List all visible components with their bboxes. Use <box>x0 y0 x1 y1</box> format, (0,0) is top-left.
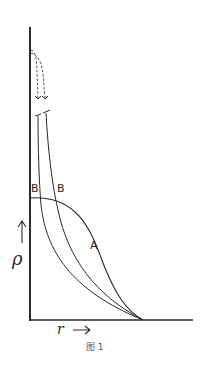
curve-a-label: A <box>90 240 98 251</box>
dashed-curve-outer <box>31 53 45 98</box>
curve-b-left-cap <box>35 114 41 116</box>
y-axis-label: ρ <box>12 250 23 268</box>
x-axis-label: r <box>57 322 64 336</box>
curve-b-right <box>46 113 143 320</box>
curve-b-left-label: B <box>31 183 39 194</box>
y-arrow-icon <box>18 221 26 243</box>
curve-b-right-label: B <box>57 183 65 194</box>
x-arrow-icon <box>73 326 90 334</box>
curve-b-right-cap <box>43 110 50 113</box>
figure-caption: 图 1 <box>86 343 104 352</box>
curve-b-left <box>38 116 143 320</box>
curve-a <box>30 198 143 320</box>
dashed-curve-inner <box>31 50 38 98</box>
